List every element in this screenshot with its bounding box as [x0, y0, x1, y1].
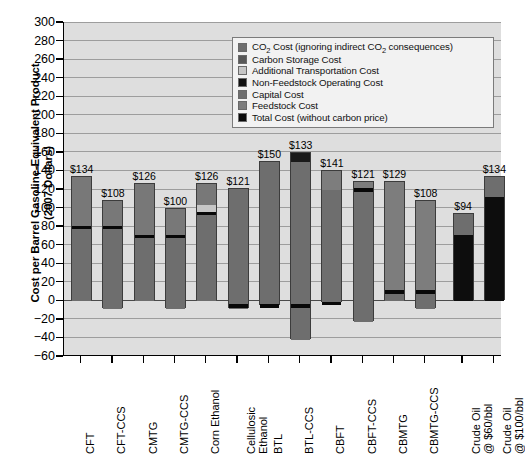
bar-segment [416, 201, 435, 292]
bar-segment [103, 201, 122, 227]
legend-label: Feedstock Cost [252, 100, 318, 111]
gridline [64, 318, 501, 319]
x-axis-tick [80, 356, 81, 363]
y-axis-tick [56, 263, 63, 264]
legend-label: Capital Cost [252, 89, 304, 100]
bar[interactable] [290, 152, 311, 339]
bar[interactable] [353, 181, 374, 321]
total-cost-marker [260, 304, 279, 307]
x-axis-tick [461, 356, 462, 363]
bar[interactable] [102, 200, 123, 308]
legend-swatch [238, 43, 247, 52]
y-axis-tick-label: 300 [34, 15, 55, 29]
x-axis-label-line: @ $100/bbl [514, 398, 525, 454]
y-axis-tick-label: 240 [34, 71, 55, 85]
bar-segment [229, 189, 248, 309]
y-axis-tick [56, 151, 63, 152]
y-axis-tick-label: 80 [41, 219, 55, 233]
x-axis-label-line: CBFT [334, 425, 346, 454]
bar[interactable] [259, 161, 280, 305]
legend-item[interactable]: Additional Transportation Cost [238, 65, 488, 77]
bar-segment [485, 197, 504, 301]
bar[interactable] [196, 183, 217, 300]
legend-label: Total Cost (without carbon price) [252, 112, 388, 123]
total-cost-marker [103, 226, 122, 229]
x-axis-label-line: Ethanol [258, 407, 270, 454]
bar-segment [260, 162, 279, 306]
bar-segment [485, 177, 504, 197]
bar-value-label: $133 [281, 139, 321, 151]
bar-value-label: $126 [124, 170, 164, 182]
x-axis-label-line: Crude Oil [501, 408, 513, 454]
legend-item[interactable]: Non-Feedstock Operating Cost [238, 77, 488, 89]
x-axis-tick [299, 356, 300, 363]
bar[interactable] [415, 200, 436, 308]
legend-swatch [238, 101, 247, 110]
legend-item[interactable]: Carbon Storage Cost [238, 54, 488, 66]
bar[interactable] [321, 170, 342, 303]
y-axis-tick [56, 21, 63, 22]
x-axis-label-line: Corn Ethanol [209, 390, 221, 454]
total-cost-marker [197, 212, 216, 215]
y-axis: 3002802602402202001801601401201008060402… [0, 22, 63, 356]
bar-segment [135, 236, 154, 301]
x-axis-label-line: CBMTG-CCS [428, 387, 440, 454]
bar-segment [197, 213, 216, 301]
legend-item[interactable]: Capital Cost [238, 88, 488, 100]
bar[interactable] [165, 208, 186, 308]
y-axis-tick [56, 281, 63, 282]
x-axis-label: CBMTG [398, 414, 410, 454]
x-axis-label-line: CFT [84, 433, 96, 454]
bar-segment [291, 162, 310, 340]
x-axis-tick [393, 356, 394, 363]
y-axis-tick [56, 318, 63, 319]
legend-label: CO2 Cost (ignoring indirect CO2 conseque… [252, 41, 453, 55]
bar-segment [454, 214, 473, 234]
legend-item[interactable]: Feedstock Cost [238, 100, 488, 112]
x-axis-label: BTL-CCS [304, 407, 316, 454]
y-axis-tick-label: 100 [34, 201, 55, 215]
bar-segment [322, 171, 341, 190]
y-axis-tick [56, 244, 63, 245]
x-axis-label: CMTG [148, 422, 160, 454]
x-axis-label-line: CBFT-CCS [366, 399, 378, 454]
bar[interactable] [484, 176, 505, 300]
total-cost-marker [229, 304, 248, 307]
bar-segment [72, 227, 91, 301]
x-axis-label-line: @ $60/bbl [483, 404, 495, 454]
bar[interactable] [228, 188, 249, 308]
bar[interactable] [384, 181, 405, 301]
bar[interactable] [134, 183, 155, 300]
total-cost-marker [322, 302, 341, 305]
x-axis-tick [174, 356, 175, 363]
bar-segment [72, 177, 91, 227]
x-axis-tick [493, 356, 494, 363]
bar-segment [166, 209, 185, 237]
legend-item[interactable]: CO2 Cost (ignoring indirect CO2 conseque… [238, 42, 488, 54]
bar-segment [354, 190, 373, 322]
y-axis-tick-label: 180 [34, 126, 55, 140]
bar-value-label: $129 [375, 168, 415, 180]
x-axis-label-line: CBMTG [397, 414, 409, 454]
x-axis-tick [111, 356, 112, 363]
x-axis-tick [236, 356, 237, 363]
bar-segment [166, 236, 185, 308]
y-axis-tick [56, 58, 63, 59]
x-axis-tick [330, 356, 331, 363]
bar[interactable] [71, 176, 92, 300]
y-axis-tick [56, 40, 63, 41]
legend-item[interactable]: Total Cost (without carbon price) [238, 112, 488, 124]
x-axis-label: BTL [273, 434, 285, 454]
x-axis-tick [424, 356, 425, 363]
bar-value-label: $100 [156, 195, 196, 207]
y-axis-tick-label: 280 [34, 34, 55, 48]
x-axis-label-line: Crude Oil [470, 408, 482, 454]
bar[interactable] [453, 213, 474, 300]
bar-value-label: $121 [218, 175, 258, 187]
x-axis-label: CFT [85, 433, 97, 454]
bar-value-label: $134 [474, 163, 514, 175]
y-axis-tick-label: −40 [34, 330, 55, 344]
y-axis-tick-label: −20 [34, 312, 55, 326]
x-axis-label: CellulosicEthanol [246, 407, 269, 454]
